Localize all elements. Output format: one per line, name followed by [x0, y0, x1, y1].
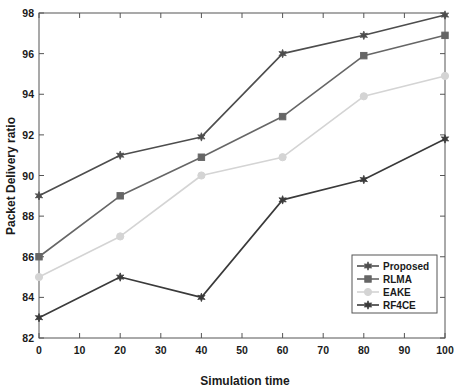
data-point-marker [279, 154, 286, 161]
y-tick-label: 94 [22, 88, 34, 100]
x-tick-label: 60 [277, 344, 289, 356]
y-tick-label: 84 [22, 291, 34, 303]
x-tick-label: 40 [196, 344, 208, 356]
data-point-marker [441, 72, 448, 79]
x-axis-label: Simulation time [200, 374, 290, 388]
legend-label: RLMA [383, 274, 412, 285]
series-line [39, 76, 445, 277]
y-tick-label: 88 [22, 210, 34, 222]
data-point-marker [360, 93, 367, 100]
y-tick-label: 90 [22, 170, 34, 182]
data-point-marker [364, 288, 371, 295]
x-tick-label: 90 [399, 344, 411, 356]
y-tick-label: 98 [22, 7, 34, 19]
data-point-marker [279, 113, 285, 119]
data-point-marker [442, 32, 448, 38]
x-tick-label: 80 [358, 344, 370, 356]
chart-legend: ProposedRLMAEAKERF4CE [352, 255, 437, 313]
chart-svg: 0102030405060708090100828486889092949698… [0, 0, 459, 391]
data-point-marker [35, 273, 42, 280]
legend-item-proposed[interactable]: Proposed [357, 261, 429, 272]
x-tick-label: 30 [155, 344, 167, 356]
data-point-marker [441, 135, 448, 143]
data-point-marker [117, 233, 124, 240]
chart-figure: 0102030405060708090100828486889092949698… [0, 0, 459, 391]
y-tick-label: 82 [22, 332, 34, 344]
x-tick-label: 100 [436, 344, 454, 356]
series-line [39, 35, 445, 256]
series-proposed [35, 11, 448, 200]
y-tick-label: 86 [22, 251, 34, 263]
data-point-marker [35, 313, 42, 321]
data-point-marker [365, 276, 371, 282]
x-tick-label: 50 [236, 344, 248, 356]
data-point-marker [36, 254, 42, 260]
x-tick-label: 0 [36, 344, 42, 356]
x-tick-label: 70 [317, 344, 329, 356]
y-axis-label: Packet Delivery ratio [4, 117, 18, 235]
y-tick-label: 96 [22, 48, 34, 60]
legend-label: EAKE [383, 287, 411, 298]
series-rlma [36, 32, 448, 260]
legend-label: Proposed [383, 261, 429, 272]
y-tick-label: 92 [22, 129, 34, 141]
data-point-marker [361, 52, 367, 58]
data-point-marker [198, 172, 205, 179]
data-point-marker [117, 193, 123, 199]
x-tick-label: 20 [114, 344, 126, 356]
data-point-marker [198, 154, 204, 160]
legend-label: RF4CE [383, 300, 416, 311]
data-point-marker [35, 192, 42, 200]
x-tick-label: 10 [74, 344, 86, 356]
